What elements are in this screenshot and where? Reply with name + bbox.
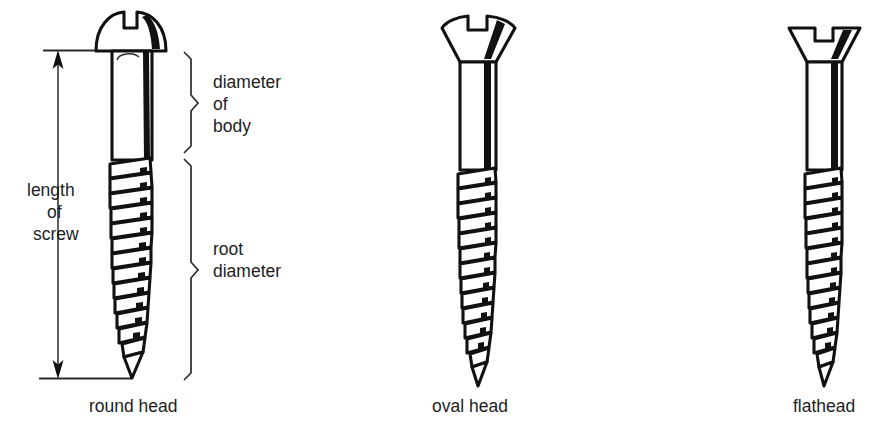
- diameter-of-body-label-line-1: diameter: [213, 72, 281, 92]
- thread-notch: [825, 342, 831, 349]
- root-diameter-callout: [184, 159, 198, 380]
- length-of-screw-label-line-1: length: [27, 180, 75, 200]
- thread-notch: [136, 302, 143, 309]
- thread-notch: [481, 312, 487, 319]
- thread-notch: [140, 182, 147, 189]
- thread-notch: [485, 207, 491, 214]
- diameter-of-body-brace: [184, 52, 198, 153]
- screw-round-head: [96, 12, 166, 378]
- caption-oval-head: oval head: [432, 396, 508, 416]
- diagram-canvas: diameter of body root diameter length of…: [0, 0, 887, 441]
- screw-diagram-figure: diameter of body root diameter length of…: [0, 0, 887, 441]
- flathead-threads: [805, 168, 842, 386]
- oval-head-threads: [458, 168, 496, 386]
- thread-notch: [830, 282, 836, 289]
- thread-notch: [832, 207, 838, 214]
- diameter-of-body-label-line-2: of: [213, 94, 228, 114]
- thread-notch: [140, 227, 147, 234]
- thread-notch: [484, 252, 490, 259]
- thread-notch: [832, 192, 838, 199]
- screw-flathead: [789, 28, 860, 386]
- thread-notch: [832, 237, 838, 244]
- length-of-screw-label-line-2: of: [47, 202, 62, 222]
- thread-point: [819, 362, 833, 386]
- thread-notch: [485, 222, 491, 229]
- thread-notch: [139, 257, 146, 264]
- thread-notch: [827, 327, 833, 334]
- caption-flathead: flathead: [793, 396, 855, 416]
- thread-notch: [828, 312, 834, 319]
- thread-notch: [483, 282, 489, 289]
- root-diameter-label-line-2: diameter: [213, 261, 281, 281]
- root-diameter-label-line-1: root: [213, 239, 243, 259]
- thread-notch: [485, 192, 491, 199]
- thread-notch: [831, 252, 837, 259]
- thread-notch: [482, 297, 488, 304]
- flathead-shank-shadow: [831, 63, 838, 170]
- thread-notch: [829, 297, 835, 304]
- thread-notch: [140, 197, 147, 204]
- thread-point: [472, 362, 487, 386]
- thread-notch: [139, 242, 146, 249]
- thread-notch: [478, 342, 484, 349]
- thread-notch: [140, 167, 147, 174]
- thread-notch: [135, 317, 142, 324]
- diameter-of-body-callout: [184, 52, 198, 153]
- round-head-shank-shadow: [143, 52, 150, 161]
- thread-notch: [485, 237, 491, 244]
- diameter-of-body-label-line-3: body: [213, 116, 251, 136]
- thread-notch: [832, 177, 838, 184]
- thread-notch: [480, 327, 486, 334]
- thread-notch: [484, 267, 490, 274]
- thread-notch: [832, 222, 838, 229]
- thread-notch: [137, 287, 144, 294]
- round-head-threads: [110, 158, 152, 378]
- oval-head-shank-shadow: [484, 63, 491, 170]
- thread-notch: [138, 272, 145, 279]
- length-of-screw-label-line-3: screw: [33, 224, 79, 244]
- thread-notch: [485, 177, 491, 184]
- thread-point: [124, 352, 143, 378]
- screw-oval-head: [442, 16, 515, 386]
- oval-head-cone: [442, 16, 515, 62]
- caption-round-head: round head: [89, 396, 178, 416]
- root-diameter-brace: [184, 159, 198, 380]
- thread-notch: [133, 332, 140, 339]
- thread-notch: [140, 212, 147, 219]
- thread-notch: [831, 267, 837, 274]
